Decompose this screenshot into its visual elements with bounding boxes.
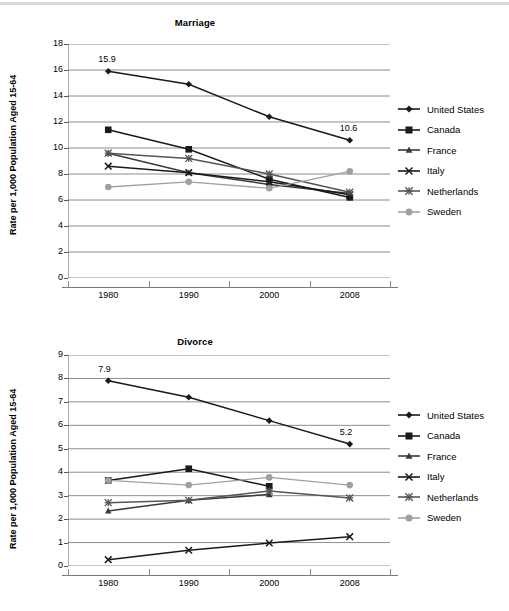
square-marker-icon — [396, 429, 422, 443]
legend-item-label: France — [422, 451, 457, 462]
y-tick-mark — [64, 543, 68, 544]
x-tick-mark — [229, 281, 230, 288]
y-tick-mark — [64, 148, 68, 149]
y-tick-label: 12 — [38, 116, 63, 126]
y-tick-mark — [64, 70, 68, 71]
legend-item-label: Sweden — [422, 512, 461, 523]
legend-item-canada[interactable]: Canada — [396, 426, 484, 447]
marriage-chart: Marriage Rate per 1,000 Population Aged … — [0, 0, 509, 310]
legend-item-label: Canada — [422, 124, 460, 135]
data-point-label: 7.9 — [98, 364, 111, 374]
legend-item-italy[interactable]: Italy — [396, 161, 484, 182]
y-tick-label: 2 — [38, 513, 63, 523]
marriage-chart-title: Marriage — [0, 17, 390, 28]
divorce-y-axis-label: Rate per 1,000 Population Aged 15-64 — [8, 366, 18, 571]
y-tick-mark — [64, 44, 68, 45]
diamond-marker-icon — [396, 102, 422, 116]
y-tick-mark — [64, 200, 68, 201]
x-marker-icon — [396, 470, 422, 484]
divorce-plot-svg — [68, 355, 390, 566]
triangle-marker-icon — [396, 143, 422, 157]
y-tick-label: 1 — [38, 537, 63, 547]
circle-marker-icon — [396, 511, 422, 525]
y-tick-label: 14 — [38, 90, 63, 100]
asterisk-marker-icon — [396, 490, 422, 504]
y-tick-mark — [64, 566, 68, 567]
x-tick-label: 2008 — [325, 290, 375, 300]
asterisk-marker-icon — [396, 184, 422, 198]
y-tick-mark — [64, 355, 68, 356]
legend-item-label: Canada — [422, 430, 460, 441]
x-tick-label: 1980 — [83, 290, 133, 300]
legend-item-france[interactable]: France — [396, 140, 484, 161]
square-marker-icon — [396, 123, 422, 137]
data-point-label: 15.9 — [98, 54, 116, 64]
divorce-chart-title: Divorce — [0, 336, 390, 347]
x-tick-mark — [390, 281, 391, 288]
x-tick-mark — [68, 569, 69, 576]
y-tick-label: 18 — [38, 38, 63, 48]
legend-item-canada[interactable]: Canada — [396, 120, 484, 141]
x-tick-mark — [310, 281, 311, 288]
legend-item-sweden[interactable]: Sweden — [396, 508, 484, 529]
x-marker-icon — [396, 164, 422, 178]
divorce-plot-area — [68, 355, 390, 566]
y-tick-mark — [64, 425, 68, 426]
y-tick-label: 4 — [38, 220, 63, 230]
x-tick-label: 1990 — [164, 290, 214, 300]
legend-item-label: Italy — [422, 471, 444, 482]
y-tick-label: 0 — [38, 560, 63, 570]
y-tick-label: 16 — [38, 64, 63, 74]
legend-item-label: Italy — [422, 165, 444, 176]
data-point-label: 10.6 — [340, 123, 358, 133]
y-tick-mark — [64, 122, 68, 123]
y-tick-mark — [64, 449, 68, 450]
x-tick-label: 1980 — [83, 578, 133, 588]
y-tick-mark — [64, 278, 68, 279]
legend-item-label: United States — [422, 410, 484, 421]
x-tick-label: 1990 — [164, 578, 214, 588]
legend-item-label: France — [422, 145, 457, 156]
divorce-chart: Divorce Rate per 1,000 Population Aged 1… — [0, 318, 509, 611]
circle-marker-icon — [396, 205, 422, 219]
y-tick-mark — [64, 96, 68, 97]
y-tick-label: 9 — [38, 349, 63, 359]
x-tick-label: 2008 — [325, 578, 375, 588]
legend-item-france[interactable]: France — [396, 446, 484, 467]
y-tick-label: 5 — [38, 443, 63, 453]
y-tick-mark — [64, 226, 68, 227]
legend-item-united-states[interactable]: United States — [396, 405, 484, 426]
legend-item-sweden[interactable]: Sweden — [396, 202, 484, 223]
y-tick-label: 4 — [38, 466, 63, 476]
legend-item-label: United States — [422, 104, 484, 115]
legend-item-netherlands[interactable]: Netherlands — [396, 487, 484, 508]
x-tick-mark — [310, 569, 311, 576]
y-tick-mark — [64, 472, 68, 473]
y-tick-mark — [64, 252, 68, 253]
y-tick-label: 0 — [38, 272, 63, 282]
x-tick-mark — [390, 569, 391, 576]
x-tick-mark — [149, 569, 150, 576]
data-point-label: 5.2 — [340, 427, 353, 437]
legend-item-label: Netherlands — [422, 186, 478, 197]
x-axis-line — [62, 575, 398, 576]
x-tick-mark — [68, 281, 69, 288]
x-tick-mark — [229, 569, 230, 576]
legend-item-united-states[interactable]: United States — [396, 99, 484, 120]
marriage-plot-area — [68, 44, 390, 278]
legend-item-netherlands[interactable]: Netherlands — [396, 181, 484, 202]
y-tick-mark — [64, 378, 68, 379]
legend-item-italy[interactable]: Italy — [396, 467, 484, 488]
divorce-legend: United StatesCanadaFranceItalyNetherland… — [396, 405, 484, 528]
diamond-marker-icon — [396, 408, 422, 422]
y-tick-mark — [64, 402, 68, 403]
y-tick-label: 6 — [38, 419, 63, 429]
legend-item-label: Sweden — [422, 206, 461, 217]
y-tick-label: 8 — [38, 372, 63, 382]
x-tick-mark — [149, 281, 150, 288]
marriage-y-axis-label: Rate per 1,000 Population Aged 15-64 — [8, 55, 18, 255]
x-tick-label: 2000 — [244, 290, 294, 300]
legend-item-label: Netherlands — [422, 492, 478, 503]
y-tick-mark — [64, 174, 68, 175]
y-tick-label: 2 — [38, 246, 63, 256]
